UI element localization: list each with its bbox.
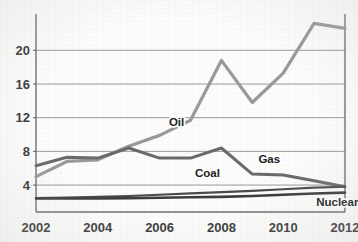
gridlines [36,14,345,212]
data-series-lines [36,23,345,198]
y-axis-tick-labels: 48121620 [16,43,36,193]
series-label-coal: Coal [195,167,220,179]
y-tick-label-16: 16 [16,77,30,92]
line-chart: 48121620 200220042006200820102012 OilOil… [0,0,358,242]
y-tick-label-8: 8 [23,144,30,159]
x-tick-label-2010: 2010 [269,220,298,235]
chart-canvas: 48121620 200220042006200820102012 OilOil… [0,0,358,242]
series-line-gas [36,148,345,187]
series-line-oil [36,23,345,176]
series-label-oil: Oil [169,116,184,128]
x-tick-label-2008: 2008 [207,220,236,235]
series-label-nuclear: Nuclear [316,196,358,208]
y-tick-label-12: 12 [16,110,30,125]
x-tick-label-2006: 2006 [145,220,174,235]
series-label-gas: Gas [258,153,280,165]
y-tick-label-20: 20 [16,43,30,58]
x-tick-label-2002: 2002 [22,220,51,235]
x-tick-label-2012: 2012 [331,220,358,235]
y-tick-label-4: 4 [23,178,31,193]
x-axis-tick-labels: 200220042006200820102012 [22,220,358,235]
x-tick-label-2004: 2004 [83,220,113,235]
